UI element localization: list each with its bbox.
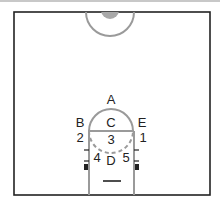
label-5: 5 [122,150,129,165]
court-diagram: A B C E 2 3 1 4 D 5 [0,0,220,209]
label-E: E [138,115,147,130]
label-C: C [106,115,115,130]
label-D: D [106,153,115,168]
label-B: B [76,115,85,130]
label-3: 3 [107,132,114,147]
block-left [84,164,88,170]
label-A: A [107,92,116,107]
label-1: 1 [139,130,146,145]
block-right [135,164,139,170]
label-4: 4 [93,150,100,165]
label-2: 2 [76,130,83,145]
center-dot [101,1,119,19]
